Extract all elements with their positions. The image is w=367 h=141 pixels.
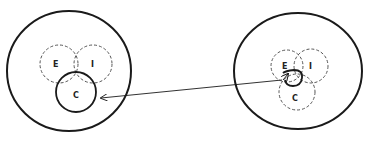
left-e-circle xyxy=(40,45,78,83)
inner-arrow xyxy=(283,74,288,80)
left-e-label: E xyxy=(53,60,58,69)
right-e-label: E xyxy=(282,62,287,71)
left-outer-circle xyxy=(7,11,131,131)
right-i-label: I xyxy=(309,62,312,71)
left-i-label: I xyxy=(91,60,94,69)
diagram: E I C E I C xyxy=(0,0,367,141)
right-c-circle xyxy=(279,74,315,110)
venn-diagram-pair: E I C E I C xyxy=(0,0,367,141)
right-c-label: C xyxy=(292,94,298,103)
left-diagram: E I C xyxy=(7,11,131,131)
right-diagram: E I C xyxy=(234,13,362,129)
left-c-label: C xyxy=(73,91,79,100)
